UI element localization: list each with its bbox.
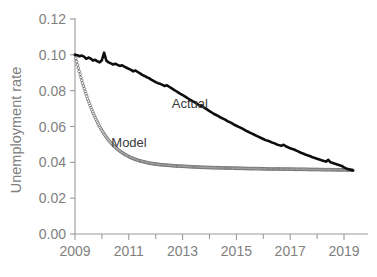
x-tick-label: 2009 — [59, 243, 90, 259]
x-tick-label: 2011 — [114, 243, 144, 259]
y-tick-label: 0.06 — [39, 119, 66, 135]
y-tick-label: 0.12 — [39, 11, 66, 27]
y-tick-label: 0.10 — [39, 47, 66, 63]
y-tick-label: 0.08 — [39, 83, 66, 99]
chart-container: 0.000.020.040.060.080.100.12 20092011201… — [0, 0, 377, 277]
unemployment-rate-line-chart: 0.000.020.040.060.080.100.12 20092011201… — [0, 0, 377, 277]
x-tick-label: 2013 — [167, 243, 198, 259]
y-tick-label: 0.04 — [39, 154, 66, 170]
y-tick-label: 0.02 — [39, 190, 66, 206]
y-axis-title: Unemployment rate — [8, 67, 24, 194]
x-tick-label: 2019 — [328, 243, 359, 259]
series-label-actual: Actual — [172, 96, 208, 111]
y-tick-label: 0.00 — [39, 226, 66, 242]
series-label-model: Model — [111, 135, 147, 150]
x-tick-label: 2015 — [221, 243, 252, 259]
x-tick-label: 2017 — [275, 243, 306, 259]
